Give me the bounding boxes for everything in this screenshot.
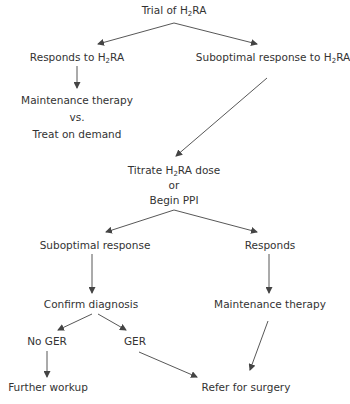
node-refer-for-surgery: Refer for surgery — [202, 381, 291, 394]
edge-confirm-to-no-ger — [58, 314, 92, 330]
node-further-workup: Further workup — [8, 381, 88, 394]
edge-titrate-to-responds — [174, 210, 257, 232]
node-line: Begin PPI — [128, 193, 221, 208]
node-text: RA — [192, 4, 206, 16]
node-text: RA — [336, 51, 350, 63]
node-titrate-or-begin-ppi: Titrate H2RA dose or Begin PPI — [128, 163, 221, 208]
node-line: or — [128, 178, 221, 193]
node-suboptimal-response-to-h2ra: Suboptimal response to H2RA — [196, 51, 350, 64]
node-maintenance-therapy: Maintenance therapy — [214, 298, 326, 311]
node-line: Maintenance therapy — [21, 92, 133, 109]
node-suboptimal-response: Suboptimal response — [40, 239, 151, 252]
edge-trial-to-responds — [98, 23, 174, 44]
node-responds: Responds — [245, 239, 296, 252]
edge-ger-to-refer — [139, 352, 197, 377]
node-text: Titrate H — [128, 164, 174, 176]
node-responds-to-h2ra: Responds to H2RA — [30, 51, 124, 64]
node-line: Titrate H2RA dose — [128, 163, 221, 178]
edge-maintenance-to-refer — [250, 321, 268, 370]
node-line: Treat on demand — [21, 126, 133, 143]
node-trial-of-h2ra: Trial of H2RA — [142, 4, 207, 17]
edge-confirm-to-ger — [98, 314, 126, 330]
node-text: RA dose — [178, 164, 220, 176]
node-text: Responds to H — [30, 51, 106, 63]
node-text: Trial of H — [142, 4, 188, 16]
node-maintenance-vs-treat: Maintenance therapy vs. Treat on demand — [21, 92, 133, 143]
node-no-ger: No GER — [27, 335, 67, 348]
node-text: RA — [110, 51, 124, 63]
node-confirm-diagnosis: Confirm diagnosis — [44, 298, 138, 311]
node-line: vs. — [21, 109, 133, 126]
edge-titrate-to-suboptimal-response — [106, 210, 174, 232]
edge-suboptimal-to-titrate — [176, 78, 267, 156]
node-text: Suboptimal response to H — [196, 51, 332, 63]
node-ger: GER — [124, 335, 146, 348]
edge-trial-to-suboptimal — [174, 23, 257, 44]
